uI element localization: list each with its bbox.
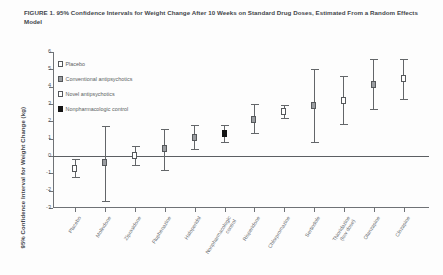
y-tick-label: -3 — [46, 204, 51, 211]
figure-container: FIGURE 1. 95% Confidence Intervals for W… — [0, 0, 443, 275]
cap-lower — [251, 133, 259, 134]
x-axis-label: Clozapine — [393, 215, 410, 238]
x-axis-label: Thioridazine(low dose) — [331, 215, 356, 246]
legend-item: Conventional antipsychotics — [58, 71, 188, 86]
data-point-marker — [401, 75, 406, 82]
cap-upper — [161, 129, 169, 130]
legend-swatch-icon — [58, 106, 63, 112]
x-axis-label: Risperidone — [242, 215, 262, 242]
data-point-marker — [341, 97, 346, 104]
legend-swatch-icon — [58, 76, 63, 82]
x-tick-mark — [254, 208, 255, 212]
legend-label: Novel antipsychotics — [66, 91, 115, 97]
cap-upper — [221, 125, 229, 126]
x-axis-label: Chlorpromazine — [267, 215, 292, 249]
x-axis-label: Haloperidol — [183, 215, 202, 241]
x-tick-mark — [314, 208, 315, 212]
data-point-marker — [311, 102, 316, 109]
cap-upper — [370, 59, 378, 60]
y-tick-label: 2 — [48, 117, 51, 124]
y-tick-label: 0 — [48, 152, 51, 159]
x-axis-label-line: Fluphenazine — [150, 215, 172, 245]
x-axis-line — [53, 207, 429, 208]
x-tick-mark — [195, 208, 196, 212]
y-axis-title-holder: 95% Confidence Interval for Weight Chang… — [22, 52, 32, 208]
cap-upper — [400, 59, 408, 60]
y-axis-title: 95% Confidence Interval for Weight Chang… — [20, 107, 26, 249]
y-axis-line — [53, 52, 54, 208]
x-tick-mark — [105, 208, 106, 212]
y-tick-label: 4 — [48, 82, 51, 89]
zero-reference-line — [53, 156, 429, 157]
x-axis-label-line: Chlorpromazine — [267, 215, 292, 249]
y-tick-label: 5 — [48, 65, 51, 72]
x-axis-label: Ziprasidone — [123, 215, 143, 241]
cap-lower — [102, 201, 110, 202]
data-point-marker — [132, 152, 137, 159]
data-point-marker — [192, 134, 197, 141]
cap-lower — [340, 124, 348, 125]
cap-upper — [191, 125, 199, 126]
x-axis-label: Molindone — [95, 215, 113, 239]
legend-swatch-icon — [58, 61, 63, 67]
cap-lower — [311, 142, 319, 143]
cap-lower — [281, 118, 289, 119]
y-tick-label: 1 — [48, 134, 51, 141]
x-tick-mark — [75, 208, 76, 212]
cap-lower — [72, 177, 80, 178]
cap-upper — [102, 126, 110, 127]
legend-label: Placebo — [66, 61, 85, 67]
x-axis-label-line: Risperidone — [242, 215, 262, 242]
legend-item: Nonpharmacologic control — [58, 101, 188, 116]
x-axis-label-line: Olanzapine — [362, 215, 381, 241]
x-axis-label-line: Molindone — [95, 215, 113, 239]
x-axis-label-line: Haloperidol — [183, 215, 202, 241]
cap-upper — [311, 69, 319, 70]
legend-label: Conventional antipsychotics — [66, 76, 133, 82]
cap-upper — [72, 159, 80, 160]
data-point-marker — [72, 165, 77, 172]
cap-lower — [161, 170, 169, 171]
x-tick-mark — [374, 208, 375, 212]
legend-item: Placebo — [58, 56, 188, 71]
data-point-marker — [281, 108, 286, 115]
legend-label: Nonpharmacologic control — [66, 106, 129, 112]
cap-lower — [132, 165, 140, 166]
figure-title: FIGURE 1. 95% Confidence Intervals for W… — [24, 9, 428, 26]
data-point-marker — [162, 145, 167, 152]
x-axis-label: Sertindole — [304, 215, 322, 238]
cap-upper — [340, 76, 348, 77]
x-axis-label: Fluphenazine — [150, 215, 172, 245]
y-tick-label: -2 — [46, 186, 51, 193]
x-axis-label: Olanzapine — [362, 215, 381, 241]
cap-lower — [400, 99, 408, 100]
data-point-marker — [251, 116, 256, 123]
legend-swatch-icon — [58, 91, 63, 97]
data-point-marker — [371, 81, 376, 88]
cap-lower — [221, 142, 229, 143]
y-tick-label: 6 — [48, 48, 51, 55]
x-tick-mark — [135, 208, 136, 212]
legend: PlaceboConventional antipsychoticsNovel … — [58, 56, 188, 116]
x-tick-mark — [344, 208, 345, 212]
x-tick-mark — [225, 208, 226, 212]
y-tick-label: -1 — [46, 169, 51, 176]
x-axis-label-line: Clozapine — [393, 215, 410, 238]
cap-lower — [370, 109, 378, 110]
data-point-marker — [222, 130, 227, 137]
legend-item: Novel antipsychotics — [58, 86, 188, 101]
y-tick-label: 3 — [48, 100, 51, 107]
x-tick-mark — [404, 208, 405, 212]
x-tick-mark — [165, 208, 166, 212]
cap-upper — [132, 146, 140, 147]
x-axis-label-line: Placebo — [67, 215, 82, 234]
x-axis-label: Placebo — [67, 215, 82, 234]
cap-upper — [281, 105, 289, 106]
cap-lower — [191, 149, 199, 150]
x-axis-label: Nonpharmacologiccontrol — [204, 215, 237, 258]
cap-upper — [251, 104, 259, 105]
data-point-marker — [102, 159, 107, 166]
x-axis-label-line: Sertindole — [304, 215, 322, 238]
x-axis-label-line: Ziprasidone — [123, 215, 143, 241]
x-tick-mark — [284, 208, 285, 212]
